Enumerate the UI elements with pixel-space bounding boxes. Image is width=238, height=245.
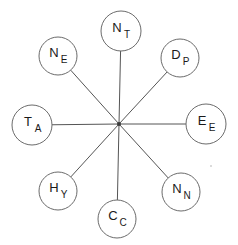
spoke-n-lower-left: [71, 124, 119, 177]
node-upper-right[interactable]: DP: [161, 39, 199, 77]
node-label-sub-upper-right: P: [183, 56, 190, 67]
node-top[interactable]: NT: [101, 11, 141, 51]
node-label-sub-lower-left: Y: [61, 189, 68, 200]
node-label-sub-top: T: [124, 29, 130, 40]
node-label-main-upper-left: N: [49, 45, 58, 60]
spoke-n-lower-right: [119, 124, 168, 178]
stray-speck: [210, 165, 212, 167]
node-label-main-right: E: [198, 113, 207, 128]
node-lower-left[interactable]: HY: [39, 172, 77, 210]
node-label-main-upper-right: D: [171, 47, 180, 62]
node-label-sub-bottom: C: [119, 217, 126, 228]
node-label-sub-lower-right: N: [183, 190, 190, 201]
node-label-sub-left: A: [35, 123, 42, 134]
spoke-n-top: [119, 51, 121, 124]
star-diagram-canvas: NTDPEENNCCHYTANE: [0, 0, 238, 245]
node-left[interactable]: TA: [12, 105, 52, 145]
node-label-main-lower-left: H: [49, 180, 58, 195]
node-label-sub-upper-left: E: [61, 54, 68, 65]
hub-center-dot: [117, 122, 121, 126]
node-label-main-lower-right: N: [172, 181, 181, 196]
spoke-n-upper-right: [119, 72, 167, 124]
node-label-main-bottom: C: [108, 208, 117, 223]
node-upper-left[interactable]: NE: [39, 37, 77, 75]
node-right[interactable]: EE: [186, 104, 226, 144]
node-label-main-top: N: [112, 20, 121, 35]
spoke-n-left: [52, 124, 119, 125]
star-diagram: NTDPEENNCCHYTANE: [0, 0, 238, 245]
hub-layer: [117, 122, 121, 126]
node-circle-left[interactable]: [12, 105, 52, 145]
spoke-n-bottom: [117, 124, 119, 200]
node-label-main-left: T: [24, 114, 32, 129]
node-label-sub-right: E: [209, 122, 216, 133]
node-bottom[interactable]: CC: [98, 200, 136, 238]
node-lower-right[interactable]: NN: [162, 173, 200, 211]
spoke-n-upper-left: [71, 70, 119, 124]
